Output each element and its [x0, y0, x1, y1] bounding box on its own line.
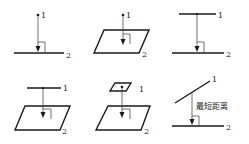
arrow-head-icon [36, 46, 41, 52]
shortest-distance-label: 最短距离 [196, 101, 228, 111]
panel-plane-to-plane: 1 2 [96, 83, 150, 136]
label-2: 2 [144, 127, 149, 136]
line-1 [175, 81, 210, 103]
plane-2 [96, 106, 150, 130]
point-1 [122, 14, 125, 17]
plane-1 [110, 83, 131, 91]
distance-diagrams: 1 2 1 2 1 2 1 2 [0, 0, 249, 144]
point-on-plane-1 [121, 86, 124, 89]
label-1: 1 [126, 11, 131, 20]
panel-point-to-plane: 1 2 [94, 11, 149, 59]
label-1: 1 [212, 75, 217, 84]
arrow-head-icon [195, 46, 200, 52]
label-1: 1 [41, 11, 46, 20]
foot-point-1 [42, 87, 44, 89]
panel-line-to-plane: 1 2 [15, 84, 70, 136]
label-1: 1 [139, 85, 144, 94]
arrow-head-icon [121, 39, 126, 45]
arrow-head-icon [120, 112, 125, 118]
arrow-head-icon [190, 119, 195, 125]
label-1: 1 [63, 84, 68, 93]
label-2: 2 [62, 127, 67, 136]
label-1: 1 [218, 11, 223, 20]
point-1 [37, 14, 40, 17]
label-2: 2 [142, 50, 147, 59]
label-2: 2 [226, 123, 231, 132]
panel-point-to-line: 1 2 [14, 11, 71, 60]
panel-skew-line-to-line: 1 2 最短距离 [172, 75, 231, 132]
label-2: 2 [66, 51, 71, 60]
foot-point-1 [196, 13, 198, 15]
label-2: 2 [226, 50, 231, 59]
plane-2 [94, 30, 149, 53]
panel-line-to-line: 1 2 [172, 11, 231, 59]
arrow-head-icon [41, 112, 46, 118]
